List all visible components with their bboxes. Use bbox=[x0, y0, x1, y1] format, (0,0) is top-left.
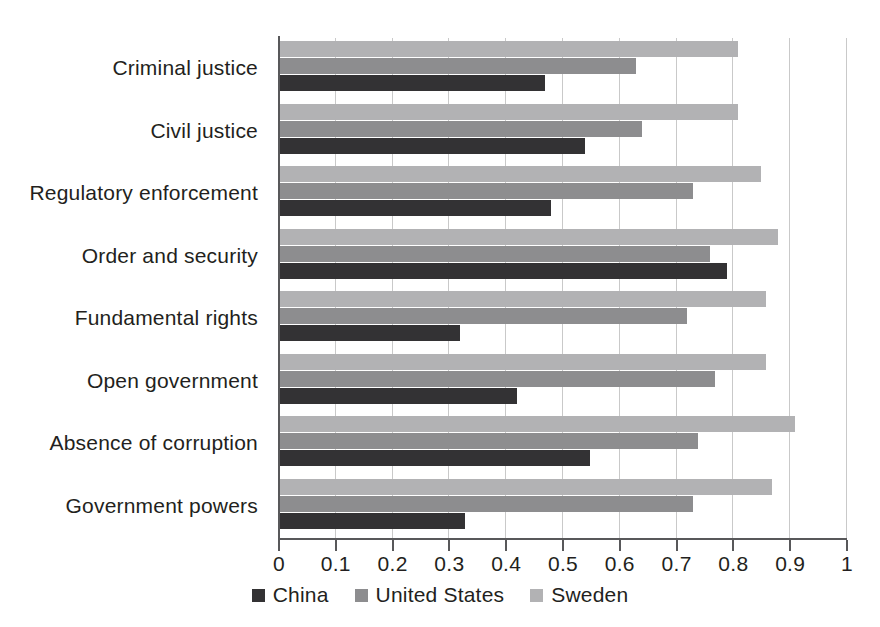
x-axis-tick-label: 0.2 bbox=[378, 551, 408, 577]
bar-china bbox=[278, 200, 551, 216]
plot-area bbox=[278, 38, 846, 538]
bar-united-states bbox=[278, 58, 636, 74]
category-label: Order and security bbox=[0, 244, 268, 268]
bar-sweden bbox=[278, 416, 795, 432]
gridline bbox=[789, 38, 790, 538]
category-label: Absence of corruption bbox=[0, 431, 268, 455]
x-axis-tick bbox=[562, 540, 564, 551]
y-axis-line bbox=[278, 36, 280, 540]
legend-label: United States bbox=[376, 583, 505, 607]
bar-united-states bbox=[278, 433, 698, 449]
bar-united-states bbox=[278, 246, 710, 262]
rule-of-law-bar-chart: 00.10.20.30.40.50.60.70.80.91 Criminal j… bbox=[0, 0, 880, 627]
bar-sweden bbox=[278, 354, 766, 370]
x-axis-tick-label: 0.7 bbox=[662, 551, 692, 577]
bar-united-states bbox=[278, 308, 687, 324]
bar-sweden bbox=[278, 41, 738, 57]
x-axis-tick bbox=[789, 540, 791, 551]
chart-legend: ChinaUnited StatesSweden bbox=[0, 583, 880, 607]
x-axis-tick-label: 0.3 bbox=[434, 551, 464, 577]
x-axis-tick-label: 0.6 bbox=[605, 551, 635, 577]
x-axis-tick bbox=[676, 540, 678, 551]
category-label: Criminal justice bbox=[0, 56, 268, 80]
x-axis-tick bbox=[732, 540, 734, 551]
bar-china bbox=[278, 138, 585, 154]
bar-china bbox=[278, 75, 545, 91]
x-axis-tick-label: 0.9 bbox=[775, 551, 805, 577]
category-label: Civil justice bbox=[0, 119, 268, 143]
bar-china bbox=[278, 263, 727, 279]
legend-swatch-icon bbox=[355, 589, 368, 602]
x-axis-tick bbox=[505, 540, 507, 551]
bar-sweden bbox=[278, 479, 772, 495]
x-axis-tick bbox=[335, 540, 337, 551]
x-axis-tick bbox=[846, 540, 848, 551]
x-axis-tick-label: 1 bbox=[841, 551, 853, 577]
category-label: Open government bbox=[0, 369, 268, 393]
bar-sweden bbox=[278, 291, 766, 307]
x-axis-tick-label: 0.4 bbox=[491, 551, 521, 577]
bar-sweden bbox=[278, 166, 761, 182]
bar-china bbox=[278, 513, 465, 529]
x-axis-tick-label: 0.5 bbox=[548, 551, 578, 577]
x-axis-tick-label: 0.1 bbox=[321, 551, 351, 577]
legend-item-sweden[interactable]: Sweden bbox=[530, 583, 628, 607]
x-axis-tick bbox=[448, 540, 450, 551]
category-label: Regulatory enforcement bbox=[0, 181, 268, 205]
legend-item-china[interactable]: China bbox=[252, 583, 329, 607]
legend-swatch-icon bbox=[252, 589, 265, 602]
category-label: Government powers bbox=[0, 494, 268, 518]
gridline bbox=[846, 38, 847, 538]
legend-label: China bbox=[273, 583, 329, 607]
bar-united-states bbox=[278, 371, 715, 387]
bar-united-states bbox=[278, 496, 693, 512]
legend-label: Sweden bbox=[551, 583, 628, 607]
bar-sweden bbox=[278, 104, 738, 120]
legend-swatch-icon bbox=[530, 589, 543, 602]
x-axis-tick-label: 0 bbox=[273, 551, 285, 577]
bar-sweden bbox=[278, 229, 778, 245]
bar-united-states bbox=[278, 121, 642, 137]
bar-china bbox=[278, 325, 460, 341]
bar-china bbox=[278, 388, 517, 404]
x-axis-tick bbox=[392, 540, 394, 551]
x-axis-tick bbox=[278, 540, 280, 551]
legend-item-united-states[interactable]: United States bbox=[355, 583, 505, 607]
x-axis-tick bbox=[619, 540, 621, 551]
category-label: Fundamental rights bbox=[0, 306, 268, 330]
x-axis-tick-label: 0.8 bbox=[718, 551, 748, 577]
bar-china bbox=[278, 450, 590, 466]
bar-united-states bbox=[278, 183, 693, 199]
